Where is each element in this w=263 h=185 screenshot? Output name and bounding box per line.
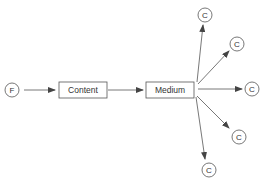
consumer-label: C <box>249 85 255 94</box>
consumer-label: C <box>234 40 240 49</box>
arrow-medium-to-c4 <box>197 96 229 128</box>
arrow-medium-to-c2 <box>198 51 229 84</box>
consumer-label: C <box>236 133 242 142</box>
medium-node: Medium <box>146 82 194 98</box>
consumer-node: C <box>230 37 244 51</box>
edges <box>24 25 242 159</box>
medium-label: Medium <box>155 85 185 95</box>
arrow-medium-to-c5 <box>196 97 205 159</box>
content-label: Content <box>68 85 98 95</box>
source-label: F <box>10 86 15 95</box>
source-node: F <box>5 83 19 97</box>
consumer-node: C <box>202 163 216 177</box>
consumer-node: C <box>245 82 259 96</box>
consumer-node: C <box>232 130 246 144</box>
consumer-nodes: CCCCC <box>198 8 259 177</box>
consumer-label: C <box>202 11 208 20</box>
consumer-node: C <box>198 8 212 22</box>
arrow-medium-to-c1 <box>197 25 203 82</box>
flow-diagram: F Content Medium CCCCC <box>0 0 263 185</box>
consumer-label: C <box>206 166 212 175</box>
content-node: Content <box>59 82 107 98</box>
